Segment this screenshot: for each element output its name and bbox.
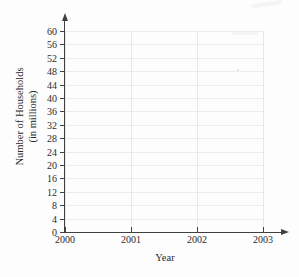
scan-artifact [237, 69, 239, 71]
y-tick-mark [60, 44, 65, 45]
gridline-vertical [197, 31, 198, 232]
gridline-horizontal [65, 219, 264, 220]
y-tick-label: 28 [5, 133, 57, 144]
y-tick-mark [60, 138, 65, 139]
y-tick-label: 56 [5, 39, 57, 50]
y-tick-label: 52 [5, 52, 57, 63]
y-tick-mark [60, 85, 65, 86]
gridline-horizontal [65, 44, 264, 45]
y-tick-mark [60, 192, 65, 193]
plot-area [65, 31, 264, 232]
x-tick-label: 2002 [177, 234, 217, 245]
x-tick-label: 2001 [111, 234, 151, 245]
y-tick-mark [60, 98, 65, 99]
y-tick-label: 36 [5, 106, 57, 117]
gridline-horizontal [65, 178, 264, 179]
y-tick-label: 12 [5, 186, 57, 197]
y-tick-mark [60, 232, 65, 233]
gridline-horizontal [65, 71, 264, 72]
x-tick-label: 2000 [45, 234, 85, 245]
y-tick-label: 48 [5, 66, 57, 77]
x-axis-title: Year [65, 252, 265, 263]
y-tick-label: 8 [5, 200, 57, 211]
gridline-vertical [263, 31, 264, 232]
y-tick-mark [60, 58, 65, 59]
chart-figure: Number of Households (in millions) [0, 0, 299, 277]
scan-artifact [232, 32, 258, 35]
scan-artifact [252, 0, 282, 8]
y-tick-label: 20 [5, 160, 57, 171]
y-tick-mark [60, 31, 65, 32]
y-tick-label: 40 [5, 93, 57, 104]
y-tick-mark [60, 165, 65, 166]
y-tick-mark [60, 111, 65, 112]
gridline-horizontal [65, 111, 264, 112]
x-tick-mark [131, 227, 132, 232]
y-tick-mark [60, 205, 65, 206]
gridline-horizontal [65, 205, 264, 206]
y-tick-label: 16 [5, 173, 57, 184]
y-tick-label: 60 [5, 26, 57, 37]
y-tick-mark [60, 71, 65, 72]
y-tick-label: 24 [5, 146, 57, 157]
y-tick-mark [60, 178, 65, 179]
gridline-horizontal [65, 165, 264, 166]
gridline-horizontal [65, 125, 264, 126]
x-tick-mark [197, 227, 198, 232]
y-tick-mark [60, 125, 65, 126]
gridline-horizontal [65, 152, 264, 153]
x-tick-mark [263, 227, 264, 232]
x-tick-label: 2003 [243, 234, 283, 245]
y-axis-line [64, 20, 65, 233]
gridline-horizontal [65, 85, 264, 86]
gridline-horizontal [65, 192, 264, 193]
gridline-horizontal [65, 138, 264, 139]
y-tick-label: 32 [5, 119, 57, 130]
y-tick-mark [60, 219, 65, 220]
x-axis-line [65, 232, 282, 233]
gridline-vertical [131, 31, 132, 232]
x-tick-mark [65, 227, 66, 232]
y-axis-arrow-icon [62, 13, 68, 21]
y-tick-mark [60, 152, 65, 153]
gridline-horizontal [65, 58, 264, 59]
y-tick-label: 44 [5, 79, 57, 90]
y-tick-label: 4 [5, 213, 57, 224]
gridline-horizontal [65, 98, 264, 99]
